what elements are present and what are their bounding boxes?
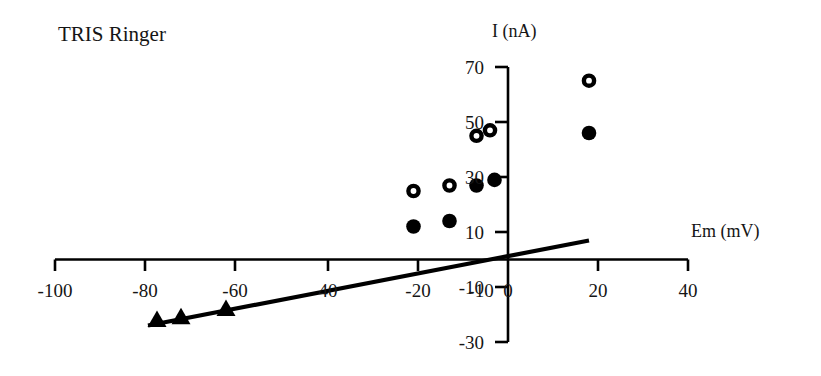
- data-point-filled-circle: [582, 126, 597, 141]
- y-tick-label-10: 10: [444, 223, 484, 242]
- x-tick-label-neg40: 40: [292, 281, 364, 300]
- y-tick-label-70: 70: [444, 58, 484, 77]
- data-point-filled-triangle: [148, 311, 167, 328]
- data-point-open-circle: [408, 186, 418, 196]
- y-axis-title: I (nA): [492, 22, 536, 40]
- y-tick-label-30: 30: [444, 168, 484, 187]
- data-point-open-circle: [584, 76, 594, 86]
- figure-panel: TRIS Ringer I (nA) Em (mV) 70 50 30 10 -…: [0, 0, 821, 376]
- x-tick-label-20: 20: [562, 281, 634, 300]
- chart-title: TRIS Ringer: [58, 24, 166, 45]
- series-filled-triangles: [148, 300, 236, 328]
- x-tick-label-zero: 0: [494, 281, 522, 300]
- data-point-open-circle: [485, 125, 495, 135]
- y-tick-label-neg30: -30: [434, 333, 484, 352]
- x-tick-label-neg80: -80: [109, 281, 181, 300]
- x-tick-label-neg100: -100: [15, 281, 95, 300]
- x-axis-title: Em (mV): [691, 222, 759, 240]
- x-axis-ticks: [55, 260, 688, 272]
- data-point-filled-circle: [406, 219, 421, 234]
- data-point-filled-circle: [487, 173, 502, 188]
- x-tick-label-40: 40: [652, 281, 724, 300]
- y-tick-label-50: 50: [444, 113, 484, 132]
- series-filled-circles: [406, 126, 596, 234]
- x-tick-label-neg20: -20: [382, 281, 454, 300]
- chart-plot-area: [0, 0, 821, 376]
- x-tick-label-neg60: -60: [199, 281, 271, 300]
